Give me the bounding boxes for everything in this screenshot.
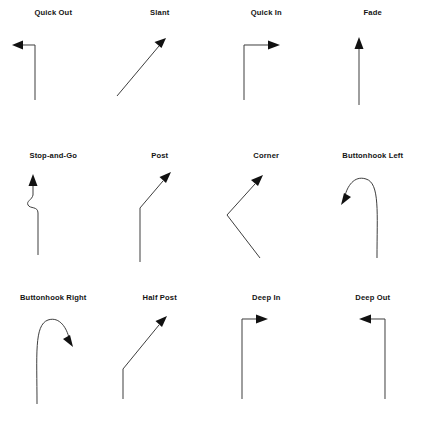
- arrowhead-icon: [159, 172, 170, 183]
- route-diagram-corner: [213, 143, 320, 286]
- route-path: [123, 325, 159, 399]
- route-diagram-quick-out: [0, 0, 107, 143]
- route-path: [37, 320, 69, 405]
- arrowhead-icon: [359, 315, 371, 324]
- arrowhead-icon: [155, 316, 166, 327]
- route-path: [345, 178, 377, 258]
- route-diagram-deep-out: [320, 285, 426, 428]
- route-diagram-buttonhook-right: [0, 285, 107, 428]
- arrowhead-icon: [154, 38, 165, 48]
- route-cell-buttonhook-right: Buttonhook Right: [0, 285, 107, 428]
- route-path: [140, 181, 163, 262]
- route-cell-deep-out: Deep Out: [320, 285, 426, 428]
- route-diagram-deep-in: [213, 285, 320, 428]
- route-diagram-slant: [107, 0, 214, 143]
- route-tree-grid: Quick Out Slant Quick In Fade Stop-and-G…: [0, 0, 426, 428]
- route-path: [244, 45, 268, 100]
- route-path: [28, 185, 38, 255]
- arrowhead-icon: [12, 40, 23, 49]
- route-diagram-fade: [320, 0, 426, 143]
- arrowhead-icon: [29, 174, 38, 186]
- route-cell-stop-and-go: Stop-and-Go: [0, 143, 107, 286]
- route-cell-post: Post: [107, 143, 214, 286]
- route-diagram-buttonhook-left: [320, 143, 426, 286]
- route-cell-deep-in: Deep In: [213, 285, 320, 428]
- arrowhead-icon: [63, 335, 73, 347]
- route-cell-quick-in: Quick In: [213, 0, 320, 143]
- route-cell-quick-out: Quick Out: [0, 0, 107, 143]
- route-diagram-post: [107, 143, 214, 286]
- route-cell-corner: Corner: [213, 143, 320, 286]
- arrowhead-icon: [268, 40, 280, 49]
- route-path: [117, 46, 159, 96]
- route-diagram-quick-in: [213, 0, 320, 143]
- arrowhead-icon: [354, 37, 363, 49]
- route-cell-half-post: Half Post: [107, 285, 214, 428]
- route-diagram-half-post: [107, 285, 214, 428]
- route-path: [227, 184, 260, 258]
- route-cell-buttonhook-left: Buttonhook Left: [320, 143, 426, 286]
- route-path: [22, 45, 35, 100]
- route-diagram-stop-and-go: [0, 143, 107, 286]
- route-cell-slant: Slant: [107, 0, 214, 143]
- arrowhead-icon: [256, 315, 268, 324]
- arrowhead-icon: [251, 175, 263, 186]
- route-path: [242, 319, 256, 399]
- route-path: [371, 319, 385, 399]
- route-cell-fade: Fade: [320, 0, 426, 143]
- arrowhead-icon: [341, 193, 351, 205]
